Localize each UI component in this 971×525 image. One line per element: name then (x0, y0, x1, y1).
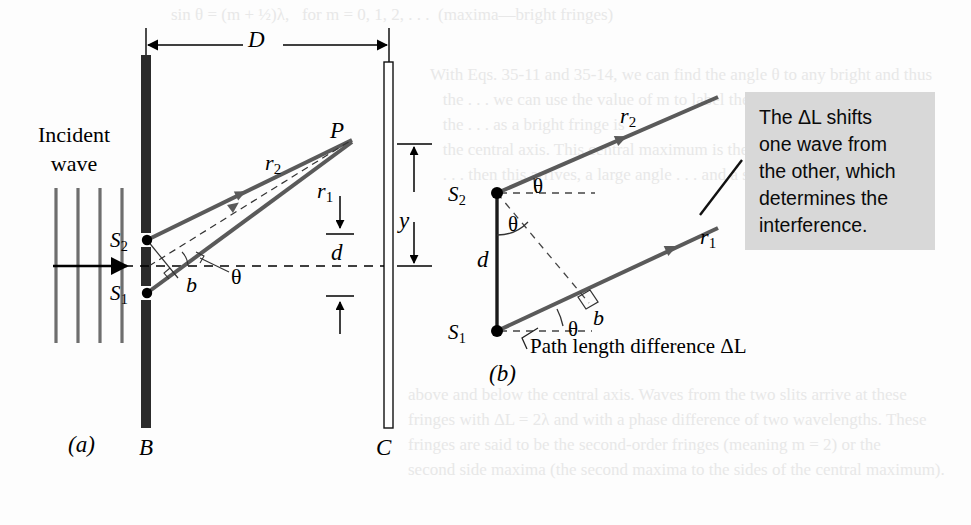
slit-S2-label-a: S2 (110, 228, 128, 255)
slit-S1-dot-a (142, 288, 152, 298)
ray-r2-label-a: r2 (265, 150, 281, 178)
path-segment-b-label-a: b (186, 272, 197, 298)
ray-r2-panel-b (497, 97, 718, 193)
point-P-label: P (330, 118, 344, 144)
barrier-B-label: B (139, 435, 153, 461)
figure-page: sin θ = (m + ½)λ, for m = 0, 1, 2, . . .… (0, 0, 971, 525)
angle-theta-label-a: θ (231, 264, 242, 290)
ray-r1-label-b: r1 (700, 224, 716, 252)
path-segment-b-label-b: b (593, 305, 604, 331)
ray-r1-panel-b (497, 228, 718, 331)
callout-box: The ΔL shifts one wave from the other, w… (745, 92, 935, 250)
slit-separation-d-label-b: d (477, 247, 489, 273)
dimension-y (397, 144, 432, 266)
ray-r1-label-a: r1 (317, 178, 333, 206)
angle-theta-top-label-b: θ (533, 174, 543, 199)
incident-wave-label: Incident wave (14, 120, 134, 178)
panel-b-caption: (b) (489, 361, 516, 387)
callout-text: The ΔL shifts one wave from the other, w… (759, 104, 925, 239)
height-y-label: y (399, 208, 409, 234)
path-length-difference-label: Path length difference ΔL (530, 334, 747, 359)
dimension-D (146, 28, 389, 70)
slit-S1-label-b: S1 (448, 320, 466, 347)
distance-D-label: D (248, 27, 265, 53)
panel-a-caption: (a) (68, 432, 95, 458)
callout-leader-line (700, 160, 742, 215)
screen-C-label: C (376, 435, 391, 461)
slit-S1-dot-b (491, 325, 503, 337)
angle-arc-bottom-b (557, 309, 563, 326)
slit-S2-dot-a (142, 235, 152, 245)
slit-S2-label-b: S2 (448, 182, 466, 209)
screen-C (384, 62, 393, 428)
angle-theta-mid-label-b: θ (508, 212, 518, 237)
slit-separation-d-label-a: d (331, 240, 343, 266)
ray-r2-label-b: r2 (620, 103, 636, 131)
perpendicular-dropline (497, 193, 589, 303)
slit-S2-dot-b (491, 187, 503, 199)
slit-S1-label-a: S1 (110, 281, 128, 308)
ray-r1-panel-a (147, 142, 352, 293)
